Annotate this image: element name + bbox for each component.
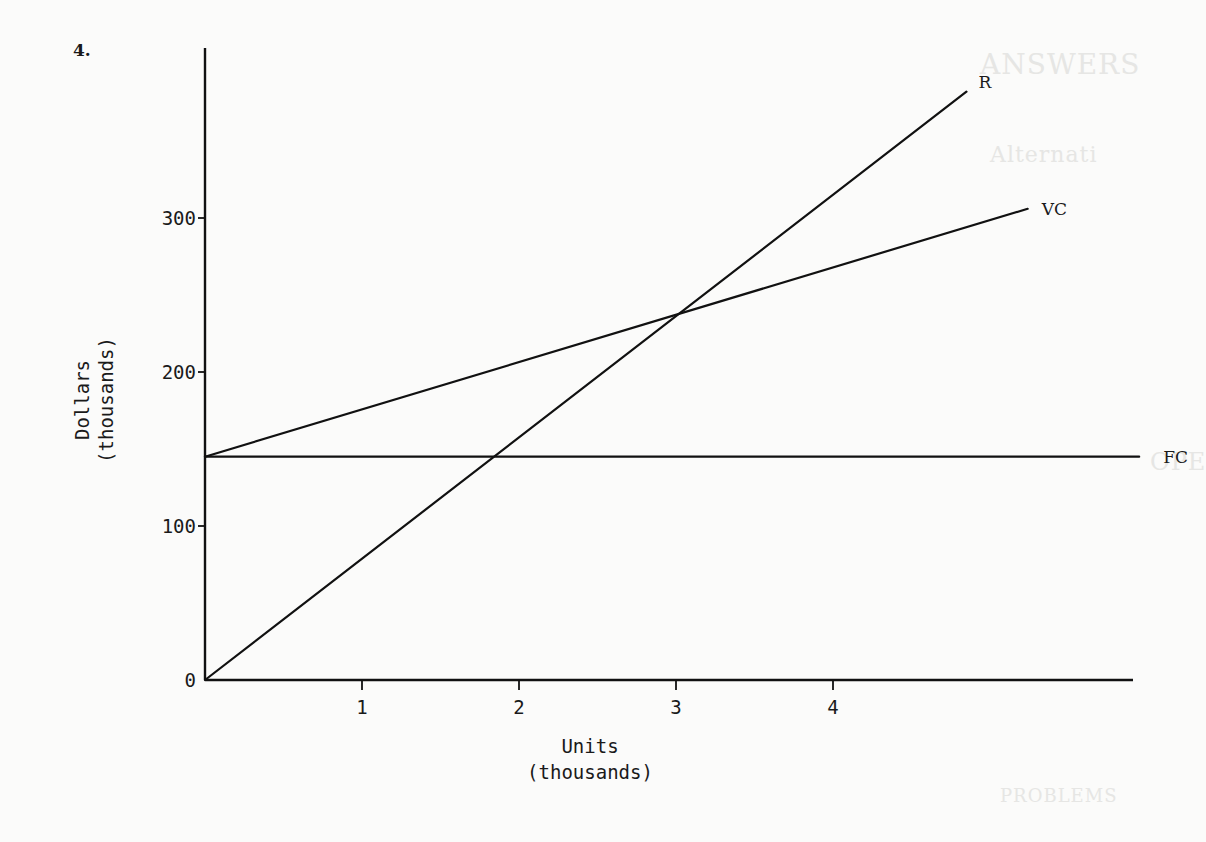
y-axis-title-group: Dollars(thousands) [71,337,117,463]
x-tick-label: 4 [827,696,838,718]
chart-labels: RVCFCUnits(thousands)Dollars(thousands) [71,72,1188,783]
y-tick-label: 0 [185,669,196,691]
y-tick-label: 100 [162,515,196,537]
x-tick-label: 1 [356,696,367,718]
x-axis-title-units: (thousands) [527,761,653,783]
y-tick-label: 200 [162,361,196,383]
chart-axes [205,48,1133,680]
series-line-vc [205,209,1028,457]
x-axis-title: Units [561,735,618,757]
x-tick-label: 2 [513,696,524,718]
series-label-r: R [978,72,992,92]
series-label-fc: FC [1163,447,1188,467]
series-line-r [205,92,966,680]
y-tick-label: 300 [162,207,196,229]
series-label-vc: VC [1041,199,1067,219]
x-tick-label: 3 [670,696,681,718]
axis-ticks: 01002003001234 [162,207,839,718]
y-axis-title: Dollars [71,360,93,440]
y-axis-title-units: (thousands) [95,337,117,463]
chart-series [205,92,1139,680]
